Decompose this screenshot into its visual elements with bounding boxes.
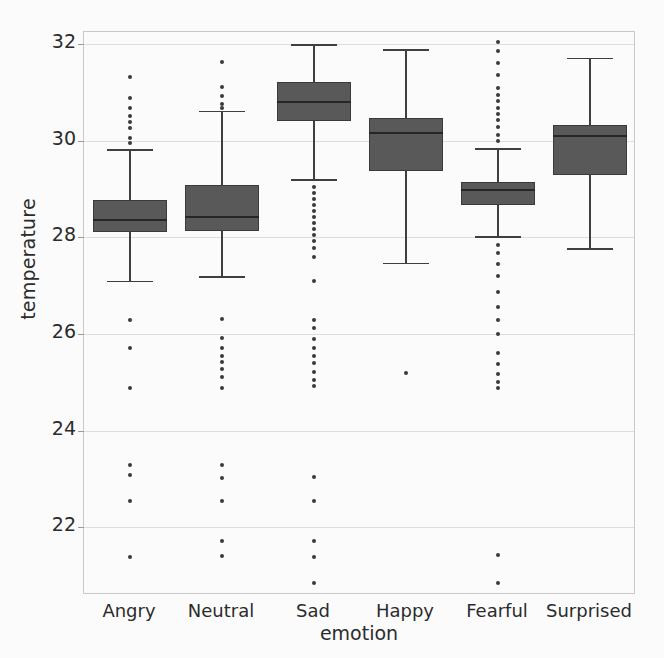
outlier-point (496, 332, 500, 336)
boxplot-neutral[interactable] (176, 32, 268, 593)
cap-lower (475, 236, 521, 238)
y-tick-mark-30 (78, 141, 84, 142)
median-line (461, 189, 535, 191)
outlier-point (312, 326, 316, 330)
boxplot-happy[interactable] (360, 32, 452, 593)
outlier-point (128, 75, 132, 79)
outlier-point (496, 99, 500, 103)
outlier-point (220, 375, 224, 379)
outlier-point (496, 106, 500, 110)
x-axis-title: emotion (83, 622, 635, 644)
outlier-point (496, 262, 500, 266)
outlier-point (220, 367, 224, 371)
outlier-point (496, 86, 500, 90)
outlier-point (312, 203, 316, 207)
outlier-point (312, 209, 316, 213)
outlier-point (312, 215, 316, 219)
outlier-point (312, 361, 316, 365)
cap-upper (107, 149, 153, 151)
outlier-point (496, 139, 500, 143)
outlier-point (312, 221, 316, 225)
outlier-point (312, 539, 316, 543)
outlier-point (220, 85, 224, 89)
outlier-point (220, 94, 224, 98)
outlier-point (128, 114, 132, 118)
outlier-point (128, 120, 132, 124)
outlier-point (220, 354, 224, 358)
boxplot-fearful[interactable] (452, 32, 544, 593)
cap-upper (567, 58, 613, 60)
outlier-point (496, 386, 500, 390)
box-iqr (461, 182, 535, 205)
outlier-point (496, 372, 500, 376)
y-tick-label-24: 24 (46, 417, 76, 439)
outlier-point (128, 555, 132, 559)
median-line (277, 101, 351, 103)
whisker-upper (313, 44, 315, 82)
outlier-point (312, 185, 316, 189)
cap-lower (291, 179, 337, 181)
whisker-upper (497, 148, 499, 182)
cap-lower (383, 263, 429, 265)
whisker-lower (497, 205, 499, 237)
y-axis-title: temperature (17, 159, 39, 359)
outlier-point (128, 96, 132, 100)
outlier-point (220, 463, 224, 467)
cap-upper (291, 44, 337, 46)
outlier-point (220, 346, 224, 350)
plot-area (83, 31, 635, 594)
box-iqr (93, 200, 167, 232)
median-line (553, 135, 627, 137)
outlier-point (128, 386, 132, 390)
outlier-point (128, 318, 132, 322)
outlier-point (496, 581, 500, 585)
outlier-point (496, 125, 500, 129)
y-tick-mark-24 (78, 431, 84, 432)
x-tick-label-angry: Angry (83, 600, 175, 621)
outlier-point (128, 463, 132, 467)
outlier-point (496, 118, 500, 122)
outlier-point (220, 106, 224, 110)
outlier-point (496, 73, 500, 77)
outlier-point (220, 386, 224, 390)
whisker-upper (405, 49, 407, 118)
box-iqr (185, 185, 259, 230)
x-tick-label-fearful: Fearful (451, 600, 543, 621)
outlier-point (496, 351, 500, 355)
cap-lower (567, 248, 613, 250)
boxplot-figure: temperature emotion 222426283032 AngryNe… (0, 0, 664, 658)
y-tick-mark-28 (78, 237, 84, 238)
y-tick-mark-32 (78, 44, 84, 45)
cap-upper (383, 49, 429, 51)
boxplot-surprised[interactable] (544, 32, 636, 593)
outlier-point (220, 317, 224, 321)
outlier-point (496, 274, 500, 278)
outlier-point (128, 136, 132, 140)
whisker-lower (405, 171, 407, 263)
outlier-point (220, 60, 224, 64)
outlier-point (404, 371, 408, 375)
outlier-point (312, 239, 316, 243)
outlier-point (312, 354, 316, 358)
outlier-point (220, 499, 224, 503)
boxplot-sad[interactable] (268, 32, 360, 593)
outlier-point (312, 233, 316, 237)
outlier-point (220, 539, 224, 543)
outlier-point (312, 384, 316, 388)
y-tick-label-26: 26 (46, 320, 76, 342)
outlier-point (496, 133, 500, 137)
outlier-point (312, 499, 316, 503)
x-tick-label-surprised: Surprised (543, 600, 635, 621)
y-tick-mark-26 (78, 334, 84, 335)
outlier-point (128, 473, 132, 477)
outlier-point (128, 346, 132, 350)
outlier-point (312, 555, 316, 559)
whisker-upper (129, 149, 131, 199)
outlier-point (496, 61, 500, 65)
outlier-point (312, 346, 316, 350)
outlier-point (496, 49, 500, 53)
boxplot-angry[interactable] (84, 32, 176, 593)
x-tick-label-neutral: Neutral (175, 600, 267, 621)
outlier-point (496, 93, 500, 97)
outlier-point (128, 141, 132, 145)
